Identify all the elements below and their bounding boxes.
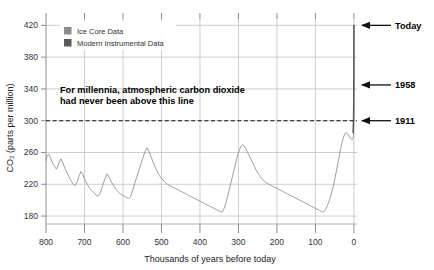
x-tick-label-200: 200	[270, 237, 284, 247]
y-tick-label-300: 300	[24, 116, 38, 126]
y-tick-label-220: 220	[24, 179, 38, 189]
y-tick-label-260: 260	[24, 147, 38, 157]
x-tick-label-800: 800	[39, 237, 53, 247]
callout-label-today: Today	[395, 21, 422, 31]
y-tick-label-380: 380	[24, 52, 38, 62]
legend-label-ice-core: Ice Core Data	[77, 27, 124, 36]
x-tick-label-300: 300	[231, 237, 245, 247]
callout-label-1911: 1911	[395, 116, 415, 126]
legend-label-modern-instrumental: Modern Instrumental Data	[77, 39, 165, 48]
callout-label-1958: 1958	[395, 80, 415, 90]
x-tick-label-600: 600	[116, 237, 130, 247]
x-tick-labels: 8007006005004003002001000	[39, 237, 357, 247]
y-tick-label-340: 340	[24, 84, 38, 94]
legend-swatch-ice-core	[64, 27, 72, 35]
y-axis-title: CO₂ (parts per million)	[5, 83, 15, 172]
chart-legend: Ice Core DataModern Instrumental Data	[60, 21, 176, 50]
threshold-annotation-line2: had never been above this line	[60, 96, 194, 106]
x-axis-title: Thousands of years before today	[144, 254, 276, 264]
series-line-modern-instrumental	[353, 25, 354, 132]
co2-chart: 180220260300340380420 800700600500400300…	[0, 0, 434, 270]
x-tick-label-0: 0	[352, 237, 357, 247]
y-tick-label-420: 420	[24, 20, 38, 30]
legend-swatch-modern-instrumental	[64, 39, 72, 47]
x-tick-label-100: 100	[308, 237, 322, 247]
chart-canvas: 180220260300340380420 800700600500400300…	[0, 0, 434, 270]
y-tick-label-180: 180	[24, 211, 38, 221]
x-tick-label-700: 700	[77, 237, 91, 247]
x-tick-label-400: 400	[193, 237, 207, 247]
threshold-annotation-line1: For millennia, atmospheric carbon dioxid…	[60, 85, 245, 95]
x-tick-label-500: 500	[154, 237, 168, 247]
